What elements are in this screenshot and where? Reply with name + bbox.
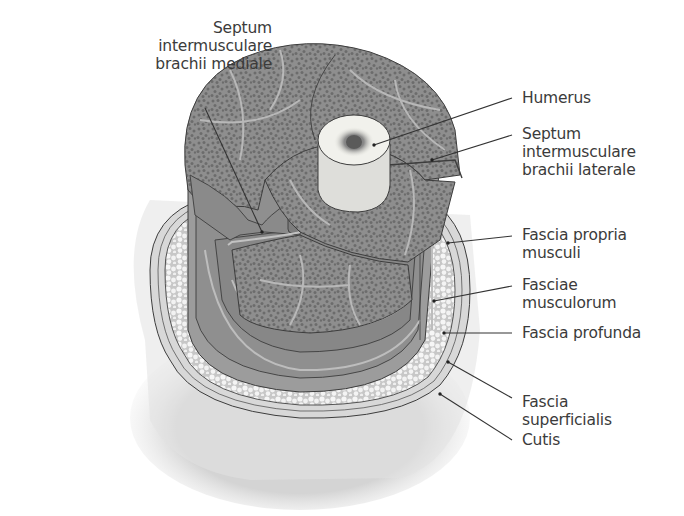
- label-line: Fasciae: [522, 276, 616, 294]
- humerus-bone: [318, 115, 390, 212]
- label-fascia-profunda: Fascia profunda: [522, 324, 641, 342]
- label-humerus: Humerus: [522, 89, 591, 107]
- label-fascia-propria-musculi: Fascia propria musculi: [522, 226, 627, 262]
- label-line: Septum: [155, 19, 272, 37]
- label-line: Fascia: [522, 393, 612, 411]
- label-line: Fascia propria: [522, 226, 627, 244]
- label-septum-intermusculare-brachii-mediale: Septum intermusculare brachii mediale: [155, 19, 272, 73]
- label-line: musculorum: [522, 294, 616, 312]
- label-line: intermusculare: [155, 37, 272, 55]
- label-line: superficialis: [522, 411, 612, 429]
- label-fascia-superficialis: Fascia superficialis: [522, 393, 612, 429]
- label-line: Cutis: [522, 431, 560, 449]
- label-septum-intermusculare-brachii-laterale: Septum intermusculare brachii laterale: [522, 125, 636, 179]
- label-line: musculi: [522, 244, 627, 262]
- label-cutis: Cutis: [522, 431, 560, 449]
- label-line: intermusculare: [522, 143, 636, 161]
- label-line: brachii laterale: [522, 161, 636, 179]
- label-line: Fascia profunda: [522, 324, 641, 342]
- label-line: Humerus: [522, 89, 591, 107]
- label-fasciae-musculorum: Fasciae musculorum: [522, 276, 616, 312]
- label-line: Septum: [522, 125, 636, 143]
- label-line: brachii mediale: [155, 55, 272, 73]
